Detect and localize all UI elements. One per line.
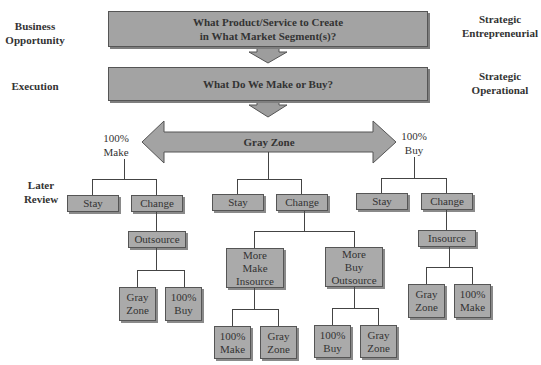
connector xyxy=(446,210,447,230)
box-line: Buy xyxy=(320,342,346,355)
box-line: 100% xyxy=(220,330,246,343)
connector xyxy=(332,308,333,325)
outsource-outcome-gray-zone-box: GrayZone xyxy=(360,325,397,358)
label-line: Operational xyxy=(460,83,540,97)
label-line: Strategic xyxy=(460,12,540,26)
box-line: 100% xyxy=(320,329,346,342)
connector xyxy=(414,157,415,179)
buy-outcome-gray-zone-box: GrayZone xyxy=(408,284,445,318)
make-outcome-gray-zone-box: GrayZone xyxy=(119,287,156,321)
label-line: Entrepreneurial xyxy=(460,26,540,40)
gray-change-box: Change xyxy=(276,194,328,211)
box-line: Zone xyxy=(367,342,390,355)
box-line: 100% xyxy=(171,291,197,304)
connector xyxy=(92,179,157,180)
connector xyxy=(278,309,279,326)
connector xyxy=(381,178,447,179)
insource-outcome-gray-zone-box: GrayZone xyxy=(260,326,297,359)
box-line: Buy xyxy=(171,304,197,317)
connector xyxy=(232,309,233,326)
connector xyxy=(426,267,427,284)
product-service-box: What Product/Service to Create in What M… xyxy=(108,11,428,47)
label-line: Later xyxy=(18,178,64,192)
make-outcome-100-buy-box: 100%Buy xyxy=(165,287,202,321)
label-line: Strategic xyxy=(460,69,540,83)
buy-change-box: Change xyxy=(421,193,473,210)
connector xyxy=(332,308,379,309)
box-line: Gray xyxy=(415,288,438,301)
down-arrow-icon xyxy=(249,100,287,117)
connector xyxy=(156,179,157,195)
later-review-label: Later Review xyxy=(18,178,64,206)
box-line: What Product/Service to Create xyxy=(193,15,343,29)
box-line: Outsource xyxy=(331,274,376,287)
make-change-box: Change xyxy=(131,195,183,212)
strategic-operational-label: Strategic Operational xyxy=(460,69,540,97)
label-line: Buy xyxy=(398,143,430,157)
buy-stay-box: Stay xyxy=(356,193,408,210)
box-line: Gray xyxy=(367,329,390,342)
connector xyxy=(156,212,157,231)
connector xyxy=(137,270,138,287)
insource-box: Insource xyxy=(418,230,476,247)
box-line: Zone xyxy=(267,343,290,356)
box-line: Insource xyxy=(236,275,274,288)
connector xyxy=(254,231,355,232)
outsource-box: Outsource xyxy=(128,231,186,248)
label-line: Opportunity xyxy=(0,33,70,47)
connector xyxy=(137,270,185,271)
make-stay-box: Stay xyxy=(67,195,119,212)
label-line: Review xyxy=(18,192,64,206)
connector xyxy=(254,231,255,248)
connector xyxy=(301,179,302,195)
box-line: 100% xyxy=(460,288,486,301)
more-make-insource-box: MoreMakeInsource xyxy=(226,248,284,288)
connector xyxy=(237,179,302,180)
connector xyxy=(472,267,473,284)
connector xyxy=(354,231,355,248)
insource-outcome-100-make-box: 100%Make xyxy=(214,326,251,359)
connector xyxy=(232,309,279,310)
connector xyxy=(268,152,269,180)
business-opportunity-label: Business Opportunity xyxy=(0,19,70,47)
down-arrow-icon xyxy=(249,47,287,63)
box-line: Buy xyxy=(331,261,376,274)
more-buy-outsource-box: MoreBuyOutsource xyxy=(325,247,383,287)
box-line: Gray xyxy=(267,330,290,343)
buy-outcome-100-make-box: 100%Make xyxy=(454,284,491,318)
strategic-entrepreneurial-label: Strategic Entrepreneurial xyxy=(460,12,540,40)
box-line: What Do We Make or Buy? xyxy=(203,77,333,91)
outsource-outcome-100-buy-box: 100%Buy xyxy=(314,325,351,358)
label-line: 100% xyxy=(398,129,430,143)
connector xyxy=(156,248,157,271)
connector xyxy=(92,179,93,195)
connector xyxy=(449,247,450,268)
box-line: Gray xyxy=(126,291,149,304)
connector xyxy=(446,178,447,194)
box-line: Make xyxy=(236,262,274,275)
box-line: Make xyxy=(220,343,246,356)
box-line: More xyxy=(236,249,274,262)
hundred-buy-label: 100% Buy xyxy=(398,129,430,157)
box-line: Zone xyxy=(415,301,438,314)
label-line: Business xyxy=(0,19,70,33)
label-line: 100% xyxy=(100,131,132,145)
box-line: Make xyxy=(460,301,486,314)
connector xyxy=(184,270,185,287)
connector xyxy=(254,288,255,309)
label-line: Make xyxy=(100,145,132,159)
hundred-make-label: 100% Make xyxy=(100,131,132,159)
connector xyxy=(378,308,379,325)
connector xyxy=(354,287,355,308)
box-line: More xyxy=(331,248,376,261)
gray-zone-label: Gray Zone xyxy=(232,135,306,149)
connector xyxy=(304,211,305,231)
connector xyxy=(381,178,382,194)
execution-label: Execution xyxy=(0,79,70,93)
box-line: in What Market Segment(s)? xyxy=(200,29,336,43)
connector xyxy=(237,179,238,195)
connector xyxy=(426,267,473,268)
connector xyxy=(124,159,125,180)
gray-stay-box: Stay xyxy=(212,194,264,211)
box-line: Zone xyxy=(126,304,149,317)
